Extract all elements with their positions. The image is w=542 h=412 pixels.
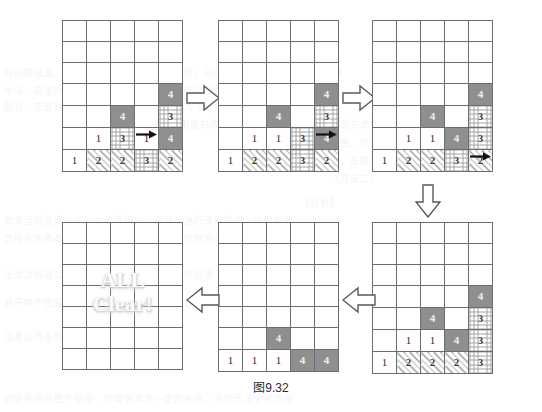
grid-cell-empty[interactable] (445, 244, 469, 265)
grid-cell-empty[interactable] (373, 286, 397, 308)
grid-cell-empty[interactable] (111, 42, 135, 63)
grid-cell-empty[interactable] (63, 223, 87, 244)
grid-cell-empty[interactable] (135, 42, 159, 63)
grid-cell-empty[interactable] (63, 349, 87, 370)
grid-cell-empty[interactable] (159, 328, 183, 349)
grid-cell-empty[interactable] (111, 286, 135, 307)
grid-cell-empty[interactable] (111, 265, 135, 286)
grid-cell-empty[interactable] (111, 21, 135, 42)
grid-cell-cross[interactable]: 3 (111, 128, 135, 150)
grid-cell-cross[interactable]: 3 (291, 128, 315, 150)
grid-cell-empty[interactable] (135, 307, 159, 328)
grid-cell-empty[interactable] (159, 286, 183, 307)
grid-panel-step-6[interactable] (62, 222, 183, 370)
grid-cell-empty[interactable] (315, 265, 339, 286)
grid-cell-empty[interactable] (445, 308, 469, 330)
grid-cell-diag[interactable]: 2 (111, 150, 135, 172)
grid-cell-cross[interactable]: 3 (159, 106, 183, 128)
grid-cell-empty[interactable] (159, 63, 183, 84)
grid-cell-empty[interactable] (87, 244, 111, 265)
grid-cell-empty[interactable] (63, 265, 87, 286)
grid-cell-empty[interactable] (397, 42, 421, 63)
grid-cell-diag[interactable]: 2 (421, 150, 445, 172)
grid-cell-empty[interactable] (87, 63, 111, 84)
grid-cell-empty[interactable] (267, 63, 291, 84)
grid-cell-empty[interactable] (469, 63, 493, 84)
grid-cell-empty[interactable] (373, 106, 397, 128)
grid-cell-cross[interactable]: 3 (469, 330, 493, 352)
grid-cell-empty[interactable] (373, 21, 397, 42)
grid-cell-empty[interactable] (87, 84, 111, 106)
grid-cell-empty[interactable] (243, 307, 267, 328)
grid-cell-empty[interactable] (159, 349, 183, 370)
grid-cell-empty[interactable] (111, 63, 135, 84)
grid-cell-plain[interactable]: 1 (267, 350, 291, 372)
grid-step-6[interactable] (62, 222, 183, 370)
grid-panel-step-2[interactable]: 443113412232 (218, 20, 339, 172)
grid-cell-empty[interactable] (291, 223, 315, 244)
grid-cell-empty[interactable] (315, 307, 339, 328)
grid-cell-empty[interactable] (267, 223, 291, 244)
grid-cell-solid[interactable]: 4 (421, 308, 445, 330)
grid-cell-plain[interactable]: 1 (397, 128, 421, 150)
grid-cell-cross[interactable]: 3 (315, 106, 339, 128)
grid-cell-empty[interactable] (87, 349, 111, 370)
grid-cell-solid[interactable]: 4 (315, 84, 339, 106)
grid-panel-step-5[interactable]: 411144 (218, 222, 339, 372)
grid-cell-empty[interactable] (135, 21, 159, 42)
grid-cell-empty[interactable] (219, 286, 243, 307)
grid-cell-empty[interactable] (111, 223, 135, 244)
grid-cell-empty[interactable] (315, 286, 339, 307)
grid-cell-plain[interactable]: 1 (243, 128, 267, 150)
grid-cell-empty[interactable] (63, 63, 87, 84)
grid-cell-diag[interactable]: 2 (315, 150, 339, 172)
grid-cell-empty[interactable] (291, 307, 315, 328)
grid-cell-empty[interactable] (397, 223, 421, 244)
grid-cell-empty[interactable] (373, 128, 397, 150)
grid-cell-empty[interactable] (373, 244, 397, 265)
grid-step-5[interactable]: 411144 (218, 222, 339, 372)
grid-cell-plain[interactable]: 1 (87, 128, 111, 150)
grid-cell-empty[interactable] (421, 42, 445, 63)
grid-cell-empty[interactable] (445, 106, 469, 128)
grid-cell-empty[interactable] (373, 308, 397, 330)
grid-cell-plain[interactable]: 1 (63, 150, 87, 172)
grid-cell-plain[interactable]: 1 (135, 128, 159, 150)
grid-cell-empty[interactable] (159, 223, 183, 244)
grid-cell-empty[interactable] (63, 42, 87, 63)
grid-cell-empty[interactable] (267, 42, 291, 63)
grid-cell-diag[interactable]: 2 (159, 150, 183, 172)
grid-cell-empty[interactable] (135, 265, 159, 286)
grid-cell-empty[interactable] (243, 84, 267, 106)
grid-cell-empty[interactable] (135, 106, 159, 128)
grid-cell-empty[interactable] (159, 21, 183, 42)
grid-step-1[interactable]: 443131412232 (62, 20, 183, 172)
grid-cell-empty[interactable] (219, 84, 243, 106)
grid-cell-plain[interactable]: 1 (267, 128, 291, 150)
grid-cell-empty[interactable] (315, 328, 339, 350)
grid-cell-empty[interactable] (243, 223, 267, 244)
grid-cell-plain[interactable]: 1 (397, 330, 421, 352)
grid-cell-plain[interactable]: 1 (373, 352, 397, 374)
grid-cell-solid[interactable]: 4 (267, 328, 291, 350)
grid-cell-empty[interactable] (397, 244, 421, 265)
grid-cell-empty[interactable] (421, 244, 445, 265)
grid-cell-solid[interactable]: 4 (111, 106, 135, 128)
grid-cell-solid[interactable]: 4 (315, 128, 339, 150)
grid-cell-diag[interactable]: 2 (445, 352, 469, 374)
grid-cell-empty[interactable] (445, 286, 469, 308)
grid-cell-empty[interactable] (111, 349, 135, 370)
grid-cell-empty[interactable] (111, 244, 135, 265)
grid-cell-empty[interactable] (469, 223, 493, 244)
grid-cell-empty[interactable] (243, 265, 267, 286)
grid-cell-empty[interactable] (63, 328, 87, 349)
grid-cell-diag[interactable]: 2 (87, 150, 111, 172)
grid-cell-empty[interactable] (421, 21, 445, 42)
grid-cell-empty[interactable] (87, 286, 111, 307)
grid-cell-empty[interactable] (159, 244, 183, 265)
grid-cell-empty[interactable] (135, 84, 159, 106)
grid-cell-empty[interactable] (219, 21, 243, 42)
grid-cell-solid[interactable]: 4 (267, 106, 291, 128)
grid-cell-empty[interactable] (267, 286, 291, 307)
grid-cell-empty[interactable] (63, 244, 87, 265)
